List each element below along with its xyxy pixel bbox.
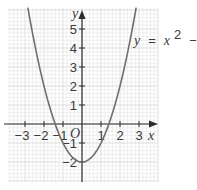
x-tick-label: 2: [116, 128, 123, 143]
x-tick-label: −3: [15, 128, 30, 143]
y-axis-label: y: [70, 6, 79, 21]
y-tick-label: 1: [70, 98, 77, 113]
origin-label: O: [70, 126, 80, 141]
x-axis-arrow-icon: [149, 121, 158, 128]
y-tick-label: 2: [70, 79, 77, 94]
x-tick-label: −2: [34, 128, 49, 143]
y-tick-label: −2: [62, 155, 77, 170]
y-axis-arrow-icon: [79, 10, 86, 19]
x-axis-label: x: [147, 128, 155, 143]
y-tick-label: 5: [70, 22, 77, 37]
x-tick-label: 3: [135, 128, 142, 143]
y-tick-label: 3: [70, 60, 77, 75]
parabola-chart: −3−2−1123−2−112345 y x O y = x 2 − 2: [0, 0, 197, 190]
equation-label: y = x 2 − 2: [132, 25, 197, 48]
x-tick-label: 1: [97, 128, 104, 143]
y-tick-label: 4: [70, 41, 77, 56]
